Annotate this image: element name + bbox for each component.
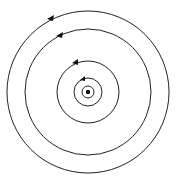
arrow-icon [47,15,54,21]
concentric-circles-diagram [0,0,176,181]
center-dot [86,90,90,94]
